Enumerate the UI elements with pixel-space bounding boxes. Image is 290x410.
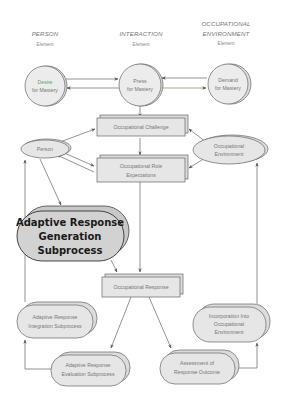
incorporation-line3: Environment: [214, 329, 244, 335]
environment-line2: Environment: [214, 151, 244, 157]
edge-person-to-challenge: [60, 129, 95, 142]
occupational-adaptation-diagram: PERSON Element INTERACTION Element OCCUP…: [0, 0, 290, 410]
node-assessment-of-response-outcome: Assessment of Response Outcome: [160, 350, 239, 384]
header-interaction-title: INTERACTION: [119, 30, 162, 37]
header-environment-subtitle: Element: [218, 41, 236, 46]
node-occupational-environment: Occupational Environment: [193, 135, 268, 164]
role-line1: Occupational Role: [120, 163, 163, 169]
assessment-line2: Response Outcome: [174, 369, 220, 375]
header-person: PERSON Element: [32, 30, 59, 47]
node-incorporation-into-environment: Incorporation Into Occupational Environm…: [193, 304, 270, 342]
person-label: Person: [37, 146, 54, 152]
edge-response-to-assessment: [149, 297, 171, 348]
edge-person-to-role: [62, 152, 94, 166]
incorporation-line2: Occupational: [214, 321, 244, 327]
node-adaptive-response-integration: Adaptive Response Integration Subprocess: [17, 302, 97, 338]
desire-line1: Desire: [38, 79, 53, 85]
evaluation-line2: Evaluation Subprocess: [61, 371, 114, 377]
desire-line2: for Mastery: [32, 87, 58, 93]
node-press-for-mastery: Press for Mastery: [119, 64, 163, 106]
node-adaptive-response-generation: Adaptive Response Generation Subprocess: [16, 206, 129, 261]
demand-line1: Demand: [218, 77, 238, 83]
header-person-subtitle: Element: [37, 42, 55, 47]
edge-person-to-generation: [40, 159, 61, 205]
edge-generation-to-response: [111, 260, 117, 272]
incorporation-line1: Incorporation Into: [209, 313, 249, 319]
challenge-label: Occupational Challenge: [113, 124, 168, 130]
press-line1: Press: [133, 78, 147, 84]
generation-line1: Adaptive Response: [16, 217, 124, 228]
evaluation-line1: Adaptive Response: [66, 362, 111, 368]
header-environment-title-1: OCCUPATIONAL: [201, 20, 251, 27]
header-interaction-subtitle: Element: [133, 42, 151, 47]
node-adaptive-response-evaluation: Adaptive Response Evaluation Subprocess: [51, 352, 130, 386]
node-desire-for-mastery: Desire for Mastery: [25, 66, 67, 106]
header-interaction: INTERACTION Element: [119, 30, 162, 47]
header-environment-title-2: ENVIRONMENT: [203, 30, 251, 37]
header-person-title: PERSON: [32, 30, 59, 37]
generation-line3: Subprocess: [37, 245, 102, 256]
node-occupational-challenge: Occupational Challenge: [97, 115, 188, 136]
edge-evaluation-to-integration: [25, 340, 52, 369]
integration-line2: Integration Subprocess: [28, 323, 82, 329]
generation-line2: Generation: [39, 231, 102, 242]
edge-response-to-evaluation: [111, 297, 131, 348]
header-environment: OCCUPATIONAL ENVIRONMENT Element: [201, 20, 251, 46]
press-line2: for Mastery: [127, 86, 153, 92]
role-line2: Expectations: [126, 172, 156, 178]
node-demand-for-mastery: Demand for Mastery: [208, 64, 251, 104]
node-person: Person: [21, 139, 71, 158]
integration-line1: Adaptive Response: [33, 314, 78, 320]
node-occupational-response: Occupational Response: [102, 274, 183, 297]
demand-line2: for Mastery: [215, 85, 241, 91]
response-label: Occupational Response: [113, 284, 168, 290]
assessment-line1: Assessment of: [180, 360, 215, 366]
node-occupational-role-expectations: Occupational Role Expectations: [97, 155, 188, 182]
environment-line1: Occupational: [214, 143, 244, 149]
